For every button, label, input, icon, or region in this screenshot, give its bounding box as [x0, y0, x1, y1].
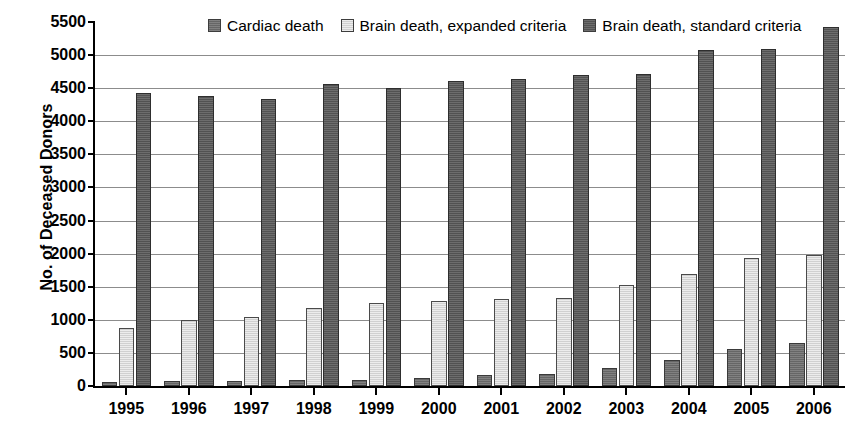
- y-axis-tick: [88, 319, 95, 321]
- y-axis-tick: [88, 352, 95, 354]
- bar-2000-series-2: [448, 81, 464, 386]
- y-axis-tick: [88, 286, 95, 288]
- bar-1996-series-2: [198, 96, 214, 386]
- y-axis-label: 500: [59, 345, 86, 361]
- x-axis-label-1998: 1998: [296, 400, 332, 418]
- y-axis-tick: [88, 385, 95, 387]
- bar-2002-series-1: [556, 298, 572, 386]
- y-axis-label: 4000: [50, 113, 86, 129]
- y-axis-label: 5500: [50, 14, 86, 30]
- plot-area: 0500100015002000250030003500400045005000…: [93, 22, 845, 388]
- y-axis-tick: [88, 54, 95, 56]
- y-axis-label: 3500: [50, 146, 86, 162]
- y-axis-label: 2500: [50, 213, 86, 229]
- bar-1995-series-2: [136, 93, 152, 386]
- y-axis-label: 3000: [50, 179, 86, 195]
- x-axis-tick: [438, 386, 440, 395]
- x-axis-tick: [125, 386, 127, 395]
- gridline: [95, 88, 845, 89]
- bar-2003-series-0: [602, 368, 618, 386]
- bar-2006-series-2: [823, 27, 839, 386]
- y-axis-label: 2000: [50, 246, 86, 262]
- x-axis-label-1996: 1996: [171, 400, 207, 418]
- y-axis-label: 4500: [50, 80, 86, 96]
- bar-2000-series-1: [431, 301, 447, 386]
- y-axis-tick: [88, 220, 95, 222]
- x-axis-label-2005: 2005: [733, 400, 769, 418]
- bar-2005-series-0: [727, 349, 743, 386]
- y-axis-tick: [88, 120, 95, 122]
- bar-1995-series-0: [102, 382, 118, 386]
- x-axis-tick: [750, 386, 752, 395]
- x-axis-tick: [375, 386, 377, 395]
- x-axis-tick: [500, 386, 502, 395]
- legend-label-0: Cardiac death: [227, 18, 324, 34]
- y-axis-label: 1500: [50, 279, 86, 295]
- bar-2001-series-0: [477, 375, 493, 386]
- y-axis-tick: [88, 253, 95, 255]
- bar-2002-series-2: [573, 75, 589, 386]
- x-axis-tick: [188, 386, 190, 395]
- y-axis-label: 1000: [50, 312, 86, 328]
- y-axis-tick: [88, 21, 95, 23]
- y-axis-tick: [88, 153, 95, 155]
- bar-1999-series-0: [352, 380, 368, 386]
- bar-2001-series-2: [511, 79, 527, 386]
- x-axis-tick: [625, 386, 627, 395]
- x-axis-label-2002: 2002: [546, 400, 582, 418]
- chart-legend: Cardiac deathBrain death, expanded crite…: [208, 18, 801, 34]
- y-axis-label: 5000: [50, 47, 86, 63]
- x-axis-tick: [313, 386, 315, 395]
- legend-item-1: Brain death, expanded criteria: [341, 18, 567, 34]
- legend-label-2: Brain death, standard criteria: [602, 18, 801, 34]
- x-axis-label-1995: 1995: [108, 400, 144, 418]
- legend-swatch-icon-0: [208, 19, 221, 32]
- x-axis-label-2003: 2003: [608, 400, 644, 418]
- bar-1998-series-1: [306, 308, 322, 386]
- bar-2001-series-1: [494, 299, 510, 386]
- bar-2004-series-0: [664, 360, 680, 386]
- bar-2005-series-1: [744, 258, 760, 386]
- legend-label-1: Brain death, expanded criteria: [360, 18, 567, 34]
- legend-item-0: Cardiac death: [208, 18, 324, 34]
- bar-1996-series-0: [164, 381, 180, 386]
- gridline: [95, 55, 845, 56]
- y-axis-tick: [88, 186, 95, 188]
- bar-2006-series-0: [789, 343, 805, 386]
- bar-2003-series-2: [636, 74, 652, 386]
- x-axis-label-2000: 2000: [421, 400, 457, 418]
- bar-1999-series-2: [386, 88, 402, 386]
- bar-1996-series-1: [181, 320, 197, 386]
- x-axis-label-2006: 2006: [796, 400, 832, 418]
- y-axis-tick: [88, 87, 95, 89]
- bar-2004-series-1: [681, 274, 697, 386]
- legend-swatch-icon-1: [341, 19, 354, 32]
- bar-1998-series-0: [289, 380, 305, 386]
- bar-2000-series-0: [414, 378, 430, 386]
- x-axis-label-1997: 1997: [233, 400, 269, 418]
- bar-2004-series-2: [698, 50, 714, 386]
- bar-1997-series-1: [244, 317, 260, 386]
- bar-1999-series-1: [369, 303, 385, 386]
- x-axis-tick: [563, 386, 565, 395]
- bar-1998-series-2: [323, 84, 339, 386]
- x-axis-tick: [250, 386, 252, 395]
- bar-2005-series-2: [761, 49, 777, 386]
- legend-item-2: Brain death, standard criteria: [583, 18, 801, 34]
- bar-2006-series-1: [806, 255, 822, 386]
- x-axis-label-2004: 2004: [671, 400, 707, 418]
- x-axis-label-1999: 1999: [358, 400, 394, 418]
- bar-1995-series-1: [119, 328, 135, 386]
- bar-1997-series-2: [261, 99, 277, 386]
- x-axis-label-2001: 2001: [483, 400, 519, 418]
- bar-1997-series-0: [227, 381, 243, 386]
- legend-swatch-icon-2: [583, 19, 596, 32]
- bar-2003-series-1: [619, 285, 635, 386]
- x-axis-tick: [813, 386, 815, 395]
- y-axis-label: 0: [77, 378, 86, 394]
- bar-2002-series-0: [539, 374, 555, 387]
- x-axis-tick: [688, 386, 690, 395]
- donor-bar-chart: No. of Deceased Donors Cardiac deathBrai…: [0, 0, 849, 428]
